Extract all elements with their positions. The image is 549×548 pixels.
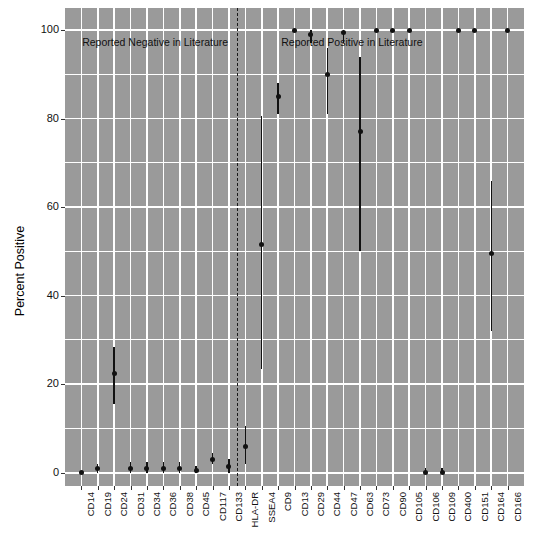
gridline-x bbox=[113, 8, 115, 486]
x-tick-mark bbox=[360, 486, 361, 490]
y-tick-label: 40 bbox=[19, 289, 59, 301]
x-tick-mark bbox=[114, 486, 115, 490]
gridline-x bbox=[343, 8, 345, 486]
x-tick-mark bbox=[147, 486, 148, 490]
data-point bbox=[276, 94, 281, 99]
chart-root: Percent Positive Reported Negative in Li… bbox=[0, 0, 549, 548]
gridline-x bbox=[212, 8, 214, 486]
x-tick-mark bbox=[229, 486, 230, 490]
y-tick-mark bbox=[61, 119, 65, 120]
gridline-x bbox=[408, 8, 410, 486]
x-tick-label: CD31 bbox=[135, 492, 146, 516]
data-point bbox=[292, 28, 297, 33]
x-tick-mark bbox=[475, 486, 476, 490]
x-tick-label: CD38 bbox=[184, 492, 195, 516]
gridline-x bbox=[163, 8, 165, 486]
x-tick-mark bbox=[81, 486, 82, 490]
x-tick-label: CD117 bbox=[217, 492, 228, 521]
y-tick-label: 20 bbox=[19, 377, 59, 389]
x-tick-mark bbox=[245, 486, 246, 490]
plot-panel: Reported Negative in LiteratureReported … bbox=[65, 8, 524, 486]
x-tick-mark bbox=[458, 486, 459, 490]
x-tick-mark bbox=[196, 486, 197, 490]
x-tick-mark bbox=[491, 486, 492, 490]
y-axis-title-text: Percent Positive bbox=[13, 21, 27, 521]
gridline-x bbox=[474, 8, 476, 486]
data-point bbox=[489, 251, 494, 256]
data-point bbox=[243, 444, 248, 449]
x-tick-label: CD47 bbox=[348, 492, 359, 516]
data-point bbox=[325, 72, 330, 77]
group-annotation: Reported Positive in Literature bbox=[281, 36, 422, 48]
x-tick-mark bbox=[508, 486, 509, 490]
data-point bbox=[79, 470, 84, 475]
gridline-x bbox=[228, 8, 230, 486]
x-tick-label: CD24 bbox=[118, 492, 129, 516]
x-tick-mark bbox=[344, 486, 345, 490]
x-tick-mark bbox=[327, 486, 328, 490]
x-tick-mark bbox=[409, 486, 410, 490]
data-point bbox=[505, 28, 510, 33]
x-tick-label: CD63 bbox=[364, 492, 375, 516]
data-point bbox=[95, 466, 100, 471]
x-tick-label: CD36 bbox=[167, 492, 178, 516]
data-point bbox=[358, 129, 363, 134]
data-point bbox=[456, 28, 461, 33]
x-tick-mark bbox=[442, 486, 443, 490]
x-tick-mark bbox=[180, 486, 181, 490]
x-tick-label: CD400 bbox=[462, 492, 473, 522]
x-tick-label: CD106 bbox=[430, 492, 441, 522]
gridline-x bbox=[441, 8, 443, 486]
gridline-x bbox=[425, 8, 427, 486]
gridline-x bbox=[310, 8, 312, 486]
y-tick-label: 60 bbox=[19, 200, 59, 212]
x-tick-label: CD109 bbox=[446, 492, 457, 522]
data-point bbox=[226, 464, 231, 469]
y-tick-label: 0 bbox=[19, 466, 59, 478]
gridline-x bbox=[179, 8, 181, 486]
y-tick-mark bbox=[61, 30, 65, 31]
data-point bbox=[407, 28, 412, 33]
y-tick-mark bbox=[61, 473, 65, 474]
x-tick-mark bbox=[393, 486, 394, 490]
x-tick-label: CD34 bbox=[151, 492, 162, 516]
group-divider bbox=[237, 8, 238, 486]
x-tick-label: CD151 bbox=[479, 492, 490, 522]
x-tick-label: CD44 bbox=[331, 492, 342, 516]
x-tick-label: CD13 bbox=[299, 492, 310, 516]
gridline-x bbox=[245, 8, 247, 486]
x-tick-label: SSEA4 bbox=[266, 492, 277, 523]
data-point bbox=[341, 30, 346, 35]
data-point bbox=[194, 468, 199, 473]
x-tick-label: CD105 bbox=[413, 492, 424, 522]
data-point bbox=[177, 466, 182, 471]
data-point bbox=[161, 466, 166, 471]
data-point bbox=[440, 470, 445, 475]
x-tick-label: CD45 bbox=[200, 492, 211, 516]
data-point bbox=[472, 28, 477, 33]
gridline-x bbox=[146, 8, 148, 486]
x-tick-mark bbox=[262, 486, 263, 490]
y-tick-mark bbox=[61, 384, 65, 385]
group-annotation: Reported Negative in Literature bbox=[82, 36, 228, 48]
gridline-x bbox=[392, 8, 394, 486]
y-tick-label: 100 bbox=[19, 23, 59, 35]
x-tick-mark bbox=[278, 486, 279, 490]
x-tick-mark bbox=[295, 486, 296, 490]
y-tick-mark bbox=[61, 296, 65, 297]
error-bar bbox=[327, 48, 328, 114]
y-tick-mark bbox=[61, 207, 65, 208]
gridline-x bbox=[507, 8, 509, 486]
x-tick-label: CD90 bbox=[397, 492, 408, 516]
x-tick-mark bbox=[98, 486, 99, 490]
x-tick-label: HLA-DR bbox=[249, 492, 260, 527]
x-tick-mark bbox=[376, 486, 377, 490]
data-point bbox=[128, 466, 133, 471]
gridline-x bbox=[130, 8, 132, 486]
gridline-x bbox=[81, 8, 83, 486]
gridline-x bbox=[458, 8, 460, 486]
x-tick-label: CD166 bbox=[512, 492, 523, 522]
gridline-x bbox=[294, 8, 296, 486]
x-tick-label: CD14 bbox=[85, 492, 96, 516]
data-point bbox=[259, 242, 264, 247]
